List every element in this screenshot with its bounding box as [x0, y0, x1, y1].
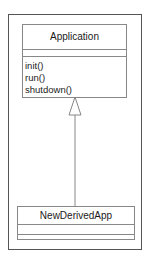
operation-shutdown: shutdown()	[25, 84, 126, 96]
class-name: NewDerivedApp	[18, 207, 134, 224]
operations-compartment	[18, 234, 134, 241]
attributes-compartment	[18, 224, 134, 234]
operation-init: init()	[25, 60, 126, 72]
class-newderivedapp[interactable]: NewDerivedApp	[17, 206, 135, 240]
class-application[interactable]: Application init() run() shutdown()	[22, 24, 127, 98]
attributes-compartment	[23, 49, 126, 56]
hollow-triangle-icon	[69, 97, 81, 115]
operation-run: run()	[25, 72, 126, 84]
class-name: Application	[23, 25, 126, 49]
operations-compartment: init() run() shutdown()	[23, 56, 126, 98]
